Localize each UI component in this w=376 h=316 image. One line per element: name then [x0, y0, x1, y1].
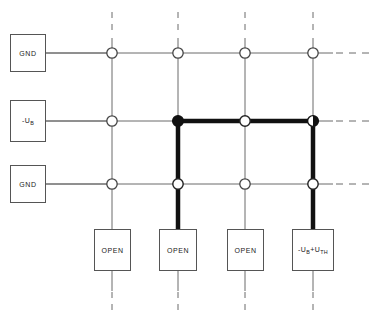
node-r1c2 — [173, 48, 183, 58]
node-r3c1 — [107, 179, 117, 189]
node-r3c4 — [308, 179, 318, 189]
node-r3c3 — [240, 179, 250, 189]
node-r1c1 — [107, 48, 117, 58]
source-stubs — [45, 53, 112, 184]
row-continuations — [336, 53, 372, 184]
column-tails-bottom — [112, 271, 313, 291]
column-termination-label-3: OPEN — [234, 247, 256, 254]
node-r3c2 — [173, 179, 183, 189]
node-r2c4-half — [308, 116, 319, 127]
row-source-label-3: GND — [19, 181, 36, 188]
crossbar-matrix-diagram: GND -UB GND OPEN OPEN OPEN -UB+UTH — [0, 0, 376, 316]
column-termination-label-1: OPEN — [101, 247, 123, 254]
node-r2c2-closed — [173, 116, 184, 127]
node-r2c1 — [107, 116, 117, 126]
column-termination-box-2[interactable]: OPEN — [159, 229, 197, 271]
node-r1c4 — [308, 48, 318, 58]
node-r2c3 — [240, 116, 250, 126]
row-source-box-3[interactable]: GND — [10, 165, 46, 203]
row-source-box-1[interactable]: GND — [10, 34, 46, 72]
column-termination-label-4: -UB+UTH — [298, 246, 328, 253]
row-source-label-2: -UB — [22, 117, 34, 124]
column-lines — [112, 38, 313, 229]
node-r1c3 — [240, 48, 250, 58]
column-termination-box-3[interactable]: OPEN — [227, 229, 264, 271]
column-continuations-top — [112, 12, 313, 36]
crosspoint-nodes — [107, 48, 319, 189]
row-lines — [45, 53, 333, 184]
row-source-box-2[interactable]: -UB — [10, 100, 46, 142]
column-termination-box-4[interactable]: -UB+UTH — [292, 229, 334, 271]
column-termination-label-2: OPEN — [167, 247, 189, 254]
column-continuations-bottom — [112, 292, 313, 310]
row-source-label-1: GND — [19, 50, 36, 57]
column-termination-box-1[interactable]: OPEN — [94, 229, 131, 271]
